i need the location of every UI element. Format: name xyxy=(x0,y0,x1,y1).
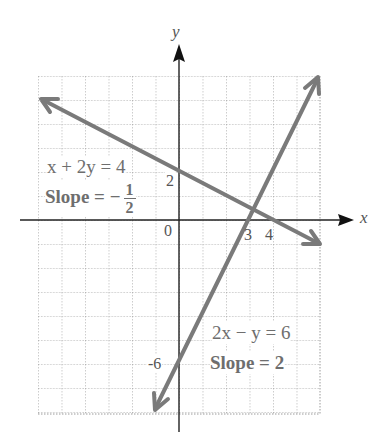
y-axis-label: y xyxy=(172,22,180,42)
line1-equation: x + 2y = 4 xyxy=(47,156,125,178)
line2-equation: 2x − y = 6 xyxy=(212,322,290,344)
x-axis-label: x xyxy=(360,208,368,228)
fraction-numerator: 1 xyxy=(124,181,136,199)
x-tick-3: 3 xyxy=(244,226,252,244)
origin-label: 0 xyxy=(164,222,172,240)
slope-fraction: 12 xyxy=(124,181,136,216)
graph-canvas xyxy=(0,0,381,447)
line1-slope: Slope = −12 xyxy=(45,181,136,216)
coordinate-plane-figure: y x 0 3 4 2 -6 x + 2y = 4 Slope = −12 2x… xyxy=(0,0,381,447)
x-axis-arrow-icon xyxy=(338,214,354,226)
fraction-denominator: 2 xyxy=(124,199,136,216)
y-tick-neg6: -6 xyxy=(147,355,162,373)
x-tick-4: 4 xyxy=(265,226,273,244)
y-tick-2: 2 xyxy=(165,172,175,190)
line1-slope-label: Slope = − xyxy=(45,186,121,207)
line2-slope: Slope = 2 xyxy=(210,352,284,374)
